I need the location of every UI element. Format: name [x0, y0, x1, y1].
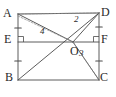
- dashed-AD-diagonal: [18, 13, 99, 14]
- segment-BO-extended: [18, 13, 99, 80]
- angle-2-label: 2: [74, 15, 79, 24]
- vertex-label-E: E: [4, 33, 11, 45]
- right-angle-marks-group: [18, 37, 99, 43]
- vertex-label-D: D: [101, 6, 110, 18]
- vertex-label-O: O: [70, 45, 79, 57]
- angle-4-label: 4: [40, 27, 45, 36]
- right-angle-at-F: [94, 37, 100, 43]
- tick-marks-group: [15, 27, 102, 61]
- right-angle-at-E: [18, 37, 24, 43]
- vertex-label-B: B: [5, 71, 13, 83]
- dashed-AO-upper: [18, 16, 73, 42]
- geometry-figure: ADBCEFO 234: [0, 0, 116, 97]
- vertex-label-C: C: [100, 71, 108, 83]
- figure-canvas: [0, 0, 116, 97]
- solid-segments-group: [18, 13, 99, 80]
- angle-3-label: 3: [79, 49, 84, 58]
- vertex-label-F: F: [101, 33, 108, 45]
- vertex-label-A: A: [3, 7, 12, 19]
